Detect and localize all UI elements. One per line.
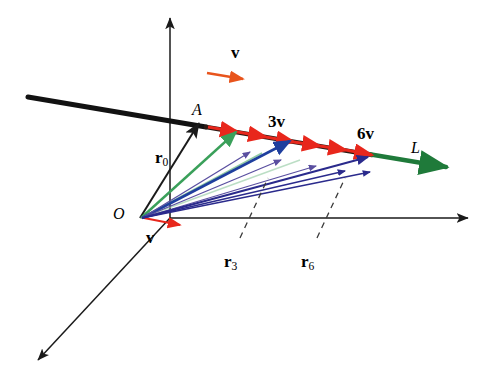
vector-line-diagram — [0, 0, 498, 386]
label-point-A: A — [192, 102, 202, 118]
label-origin-O: O — [113, 206, 125, 222]
leader-dash-r6 — [317, 178, 345, 238]
label-r3-base: r — [224, 252, 232, 271]
label-r0-subscript: 0 — [163, 156, 169, 169]
label-v-bottom: v — [146, 229, 155, 246]
v-arrow-5 — [320, 146, 346, 150]
v-arrow-4 — [294, 142, 320, 146]
v-origin-arrow — [144, 218, 180, 225]
label-six-v: 6v — [357, 125, 374, 142]
v-legend-arrow — [207, 73, 243, 79]
vector-navy-1 — [142, 171, 345, 218]
label-three-v: 3v — [268, 113, 285, 130]
label-line-L: L — [411, 140, 420, 156]
label-r3: r3 — [224, 253, 237, 273]
label-r6-base: r — [301, 252, 309, 271]
label-r6: r6 — [301, 253, 314, 273]
line-L-green-segment — [368, 154, 446, 167]
vector-navy-2 — [142, 172, 370, 218]
line-L-black-segment — [28, 97, 206, 127]
label-r0: r0 — [155, 149, 168, 169]
label-r6-subscript: 6 — [309, 260, 315, 273]
label-v-top: v — [231, 44, 240, 61]
label-r3-subscript: 3 — [232, 260, 238, 273]
label-r0-base: r — [155, 148, 163, 167]
